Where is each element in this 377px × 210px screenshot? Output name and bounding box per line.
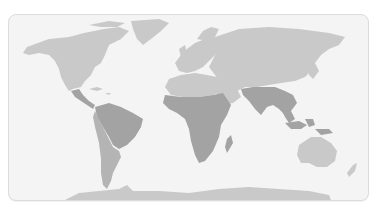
world-map: World map with highlighted tropical regi… (8, 14, 369, 201)
north-africa (165, 73, 223, 97)
central-america (71, 89, 95, 109)
madagascar (225, 135, 233, 153)
antarctica (65, 185, 331, 200)
asia (209, 27, 345, 91)
new-zealand (347, 163, 357, 177)
southeast-asia (281, 109, 295, 123)
caribbean (89, 87, 111, 95)
greenland (131, 19, 169, 45)
sub-saharan-africa (163, 93, 231, 163)
maritime-southeast-asia (285, 119, 333, 135)
australia (297, 137, 337, 167)
